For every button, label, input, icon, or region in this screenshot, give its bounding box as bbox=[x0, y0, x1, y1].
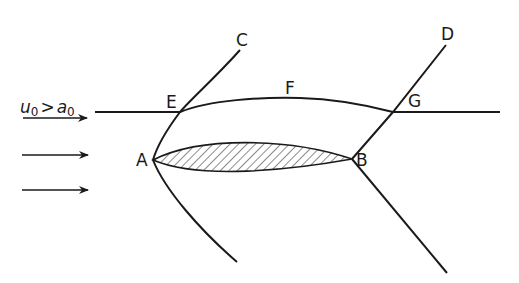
label-A: A bbox=[136, 150, 148, 170]
label-G: G bbox=[408, 91, 421, 111]
aerofoil bbox=[153, 143, 352, 172]
label-C: C bbox=[236, 30, 248, 50]
label-B: B bbox=[356, 150, 368, 170]
trailing-edge-shock-lower bbox=[352, 159, 447, 273]
label-F: F bbox=[285, 78, 295, 98]
label-E: E bbox=[166, 92, 177, 112]
streamline-curve-EFG bbox=[180, 98, 393, 112]
label-D: D bbox=[441, 24, 454, 44]
flow-condition-label: u0>a0 bbox=[20, 97, 75, 119]
trailing-edge-shock-upper bbox=[352, 45, 446, 159]
aerofoil-diagram: u0>a0 A B C D E F G bbox=[0, 0, 519, 283]
leading-edge-shock-lower bbox=[153, 160, 237, 262]
freestream-arrows bbox=[22, 118, 88, 190]
